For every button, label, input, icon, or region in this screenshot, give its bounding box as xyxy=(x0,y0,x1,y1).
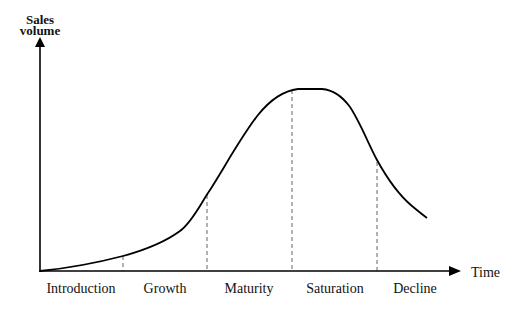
y-axis-arrow-icon xyxy=(35,37,45,47)
stage-label-maturity: Maturity xyxy=(225,281,274,296)
y-axis-label-line2: volume xyxy=(20,23,61,38)
x-axis-arrow-icon xyxy=(449,266,461,276)
sales-curve xyxy=(40,89,427,271)
stage-label-saturation: Saturation xyxy=(306,281,364,296)
product-life-cycle-diagram: Sales volume Time Introduction Growth Ma… xyxy=(0,0,521,310)
stage-label-decline: Decline xyxy=(393,281,437,296)
x-axis-label: Time xyxy=(471,265,500,280)
stage-label-introduction: Introduction xyxy=(46,281,115,296)
stage-label-growth: Growth xyxy=(144,281,187,296)
